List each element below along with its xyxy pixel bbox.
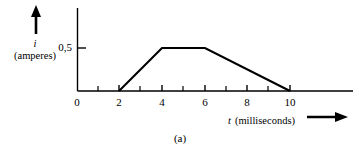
- x-major-ticks: [119, 85, 290, 91]
- x-tick-label-10: 10: [280, 97, 300, 108]
- x-axis-label: t (milliseconds): [228, 110, 295, 128]
- up-arrow-icon: [31, 5, 41, 34]
- plot-area: [0, 0, 359, 152]
- x-tick-label-8: 8: [237, 97, 257, 108]
- waveform-trace: [119, 48, 290, 91]
- x-tick-label-2: 2: [109, 97, 129, 108]
- y-tick-label-0.5: 0,5: [54, 42, 76, 53]
- x-tick-label-0: 0: [67, 97, 87, 108]
- x-tick-label-4: 4: [152, 97, 172, 108]
- right-arrow-icon: [307, 112, 348, 122]
- x-tick-label-6: 6: [195, 97, 215, 108]
- x-axis-symbol: t: [228, 115, 231, 126]
- figure-caption: (a): [165, 133, 195, 144]
- x-axis-unit: (milliseconds): [235, 115, 295, 126]
- current-waveform-figure: i (amperes) 0,5 0 2 4 6 8 10 t (millisec…: [0, 0, 359, 152]
